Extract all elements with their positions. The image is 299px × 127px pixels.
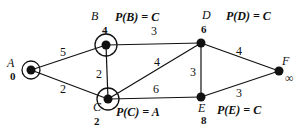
pred-B: P(B) = C	[115, 10, 160, 24]
weight-D-E: 3	[190, 65, 196, 79]
weight-E-F: 3	[236, 86, 242, 100]
pred-C: P(C) = A	[116, 105, 160, 119]
shortest-path-graph-diagram: A B C D E F 0 4 2 6 8 ∞ 5 2 2 3 4 6 3 4 …	[0, 0, 299, 127]
pred-E: P(E) = C	[217, 103, 262, 117]
weight-B-D: 3	[151, 24, 157, 38]
weight-D-F: 4	[236, 44, 242, 58]
node-label-C: C	[93, 100, 102, 114]
weight-B-C: 2	[96, 67, 102, 81]
dist-D: 6	[201, 23, 207, 35]
dist-B: 4	[102, 24, 108, 36]
edge-B-C	[106, 45, 108, 99]
weight-C-E: 6	[153, 82, 159, 96]
node-labels: A B C D E F	[6, 8, 290, 115]
dist-F: ∞	[285, 71, 294, 85]
dist-E: 8	[201, 114, 207, 126]
edge-A-B	[31, 45, 106, 70]
pred-D: P(D) = C	[226, 9, 272, 23]
weight-A-C: 2	[60, 82, 66, 96]
edge-B-D	[106, 43, 201, 45]
node-C	[104, 95, 113, 104]
node-D	[197, 39, 206, 48]
dist-C: 2	[94, 115, 100, 127]
node-B	[102, 41, 111, 50]
weight-C-D: 4	[154, 55, 160, 69]
node-label-A: A	[6, 56, 15, 70]
graph-svg: A B C D E F 0 4 2 6 8 ∞ 5 2 2 3 4 6 3 4 …	[0, 0, 299, 127]
node-label-B: B	[91, 9, 99, 23]
node-A	[27, 66, 36, 75]
dist-A: 0	[10, 70, 16, 82]
node-label-E: E	[197, 101, 206, 115]
node-label-D: D	[201, 8, 211, 22]
edge-C-E	[108, 97, 201, 99]
weight-A-B: 5	[60, 45, 66, 59]
node-label-F: F	[281, 54, 290, 68]
edge-weights: 5 2 2 3 4 6 3 4 3	[60, 24, 242, 100]
predecessor-labels: P(B) = C P(C) = A P(D) = C P(E) = C	[115, 9, 272, 119]
